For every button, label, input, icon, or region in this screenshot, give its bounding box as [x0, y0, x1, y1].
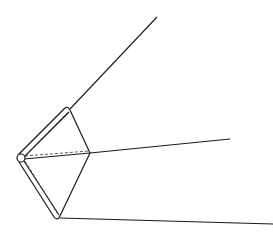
- lower-ray: [60, 218, 273, 224]
- wedge-dashed-lines: [24, 113, 89, 213]
- middle-ray: [90, 139, 230, 153]
- upper-ray: [70, 17, 157, 109]
- wedge-outline: [18, 107, 90, 218]
- wedge-diagram: [0, 0, 273, 232]
- pivot-circle: [17, 154, 25, 162]
- diagram-canvas: [0, 0, 273, 232]
